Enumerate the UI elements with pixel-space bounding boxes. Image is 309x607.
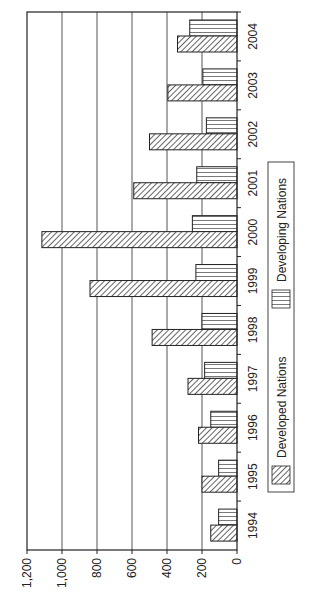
category-tick-label: 1994 bbox=[246, 512, 260, 539]
bar-developed bbox=[42, 232, 237, 248]
bar-developing bbox=[219, 509, 237, 525]
bar-developing bbox=[190, 20, 237, 36]
value-tick-label: 200 bbox=[195, 558, 209, 578]
category-axis-ticks: 1994199519961997199819992000200120022003… bbox=[237, 12, 260, 539]
bar-developed bbox=[178, 36, 238, 52]
bar-chart: 02004006008001,0001,200 1994199519961997… bbox=[0, 0, 309, 607]
value-tick-label: 1,000 bbox=[55, 558, 69, 588]
category-tick-label: 2002 bbox=[246, 121, 260, 148]
bar-developed bbox=[150, 134, 238, 150]
bars bbox=[42, 20, 237, 541]
category-tick-label: 1996 bbox=[246, 414, 260, 441]
legend-label-developed: Developed Nations bbox=[275, 357, 289, 458]
category-tick-label: 1995 bbox=[246, 463, 260, 490]
legend-label-developing: Developing Nations bbox=[275, 178, 289, 282]
value-tick-label: 800 bbox=[90, 558, 104, 578]
value-tick-label: 1,200 bbox=[20, 558, 34, 588]
bar-developing bbox=[211, 411, 237, 427]
value-tick-label: 600 bbox=[125, 558, 139, 578]
category-tick-label: 1999 bbox=[246, 267, 260, 294]
bar-developed bbox=[134, 183, 237, 199]
bar-developed bbox=[188, 378, 237, 394]
bar-developed bbox=[211, 525, 237, 541]
value-tick-label: 400 bbox=[160, 558, 174, 578]
bar-developing bbox=[197, 167, 237, 183]
bar-developing bbox=[203, 69, 237, 85]
bar-developed bbox=[199, 427, 238, 443]
value-tick-label: 0 bbox=[230, 558, 244, 565]
category-tick-label: 1998 bbox=[246, 316, 260, 343]
category-tick-label: 1997 bbox=[246, 365, 260, 392]
value-axis-ticks: 02004006008001,0001,200 bbox=[20, 550, 244, 588]
category-tick-label: 2003 bbox=[246, 72, 260, 99]
bar-developed bbox=[202, 476, 237, 492]
bar-developing bbox=[202, 313, 237, 329]
bar-developing bbox=[219, 460, 237, 476]
bar-developing bbox=[196, 265, 237, 281]
legend-swatch-developed bbox=[272, 466, 290, 484]
bar-developed bbox=[168, 85, 237, 101]
bar-developing bbox=[192, 216, 237, 232]
legend: Developed Nations Developing Nations bbox=[268, 162, 294, 492]
category-tick-label: 2001 bbox=[246, 170, 260, 197]
bar-developed bbox=[90, 281, 237, 297]
legend-swatch-developing bbox=[272, 290, 290, 308]
category-tick-label: 2000 bbox=[246, 218, 260, 245]
category-tick-label: 2004 bbox=[246, 23, 260, 50]
bar-developed bbox=[152, 329, 237, 345]
bar-developing bbox=[205, 362, 237, 378]
bar-developing bbox=[206, 118, 237, 134]
